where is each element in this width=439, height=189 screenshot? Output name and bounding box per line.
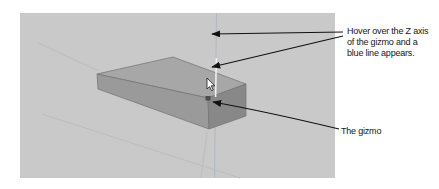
hover-note-line-1: Hover over the Z axis	[347, 26, 439, 37]
gizmo-label: The gizmo	[341, 126, 431, 137]
hover-note-line-3: blue line appears.	[347, 48, 439, 59]
hover-note: Hover over the Z axis of the gizmo and a…	[347, 26, 439, 59]
hover-note-line-2: of the gizmo and a	[347, 37, 439, 48]
3d-viewport-canvas[interactable]	[20, 13, 335, 178]
